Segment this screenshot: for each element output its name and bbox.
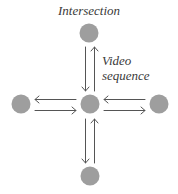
node-left <box>12 95 31 114</box>
arrow-center-to-right <box>104 107 145 114</box>
node-center <box>81 95 100 114</box>
arrow-right-to-center <box>104 96 145 103</box>
node-bottom <box>81 167 100 186</box>
arrow-top-to-center <box>82 47 89 91</box>
node-top <box>80 24 99 43</box>
arrow-left-to-center <box>35 107 76 114</box>
arrow-bottom-to-center <box>91 119 98 163</box>
arrow-center-to-top <box>91 47 98 91</box>
intersection-diagram <box>0 0 178 194</box>
arrow-center-to-left <box>35 96 76 103</box>
arrow-center-to-bottom <box>82 119 89 163</box>
node-right <box>150 95 169 114</box>
